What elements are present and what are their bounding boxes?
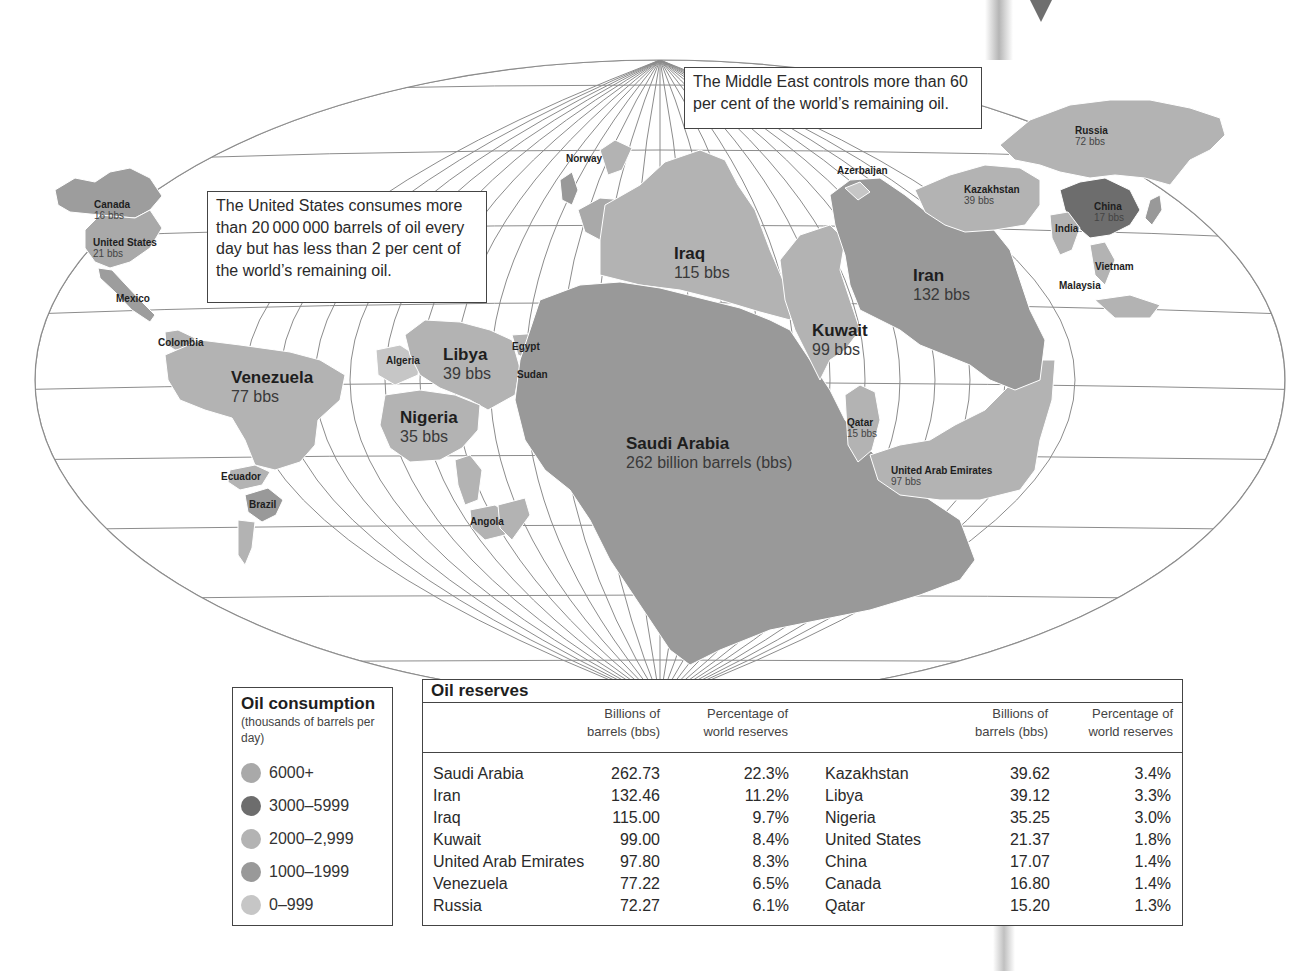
label-vietnam: Vietnam — [1095, 261, 1134, 272]
label-azerbaijan: Azerbaijan — [837, 165, 888, 176]
country-indonesia — [1095, 295, 1160, 318]
country-uk — [560, 172, 578, 205]
callout-united-states-text: The United States consumes more than 20 … — [216, 197, 464, 279]
legend-item: 1000–1999 — [241, 855, 384, 888]
label-russia: Russia 72 bbs — [1075, 125, 1108, 147]
table-row: Nigeria35.253.0% — [825, 807, 1171, 829]
table-row: United Arab Emirates97.808.3% — [433, 851, 789, 873]
col-header-barrels-right: Billions of barrels (bbs) — [958, 705, 1048, 740]
legend-item: 2000–2,999 — [241, 822, 384, 855]
book-spine-shadow-bottom — [993, 925, 1015, 971]
label-ecuador: Ecuador — [221, 471, 261, 482]
label-china: China 17 bbs — [1094, 201, 1124, 223]
label-united-states: United States 21 bbs — [93, 237, 157, 259]
legend-items: 6000+ 3000–5999 2000–2,999 1000–1999 0–9… — [241, 756, 384, 921]
label-sudan: Sudan — [517, 369, 548, 380]
legend-swatch-icon — [241, 862, 261, 882]
table-row: Libya39.123.3% — [825, 785, 1171, 807]
header-divider — [423, 752, 1182, 753]
label-iraq: Iraq 115 bbs — [674, 245, 730, 281]
legend-swatch-icon — [241, 763, 261, 783]
legend-swatch-icon — [241, 796, 261, 816]
col-header-barrels-left: Billions of barrels (bbs) — [573, 705, 660, 740]
col-header-pct-right: Percentage of world reserves — [1058, 705, 1173, 740]
book-spine-shadow-top — [985, 0, 1013, 60]
label-kuwait: Kuwait 99 bbs — [812, 322, 868, 358]
legend-item: 0–999 — [241, 888, 384, 921]
table-row: Canada16.801.4% — [825, 873, 1171, 895]
label-mexico: Mexico — [116, 293, 150, 304]
country-central-africa — [455, 455, 482, 505]
legend-subtitle: (thousands of barrels per day) — [241, 715, 384, 746]
table-row: Kuwait99.008.4% — [433, 829, 789, 851]
label-malaysia: Malaysia — [1059, 280, 1101, 291]
table-row: Russia72.276.1% — [433, 895, 789, 917]
legend-title: Oil consumption — [241, 694, 384, 714]
label-libya: Libya 39 bbs — [443, 346, 491, 382]
page-marker-arrow-icon — [1030, 0, 1052, 22]
label-kazakhstan: Kazakhstan 39 bbs — [964, 184, 1020, 206]
legend-item: 6000+ — [241, 756, 384, 789]
table-row: United States21.371.8% — [825, 829, 1171, 851]
oil-reserves-table: Oil reserves Billions of barrels (bbs) P… — [422, 679, 1183, 926]
label-norway: Norway — [566, 153, 602, 164]
label-egypt: Egypt — [512, 341, 540, 352]
label-qatar: Qatar 15 bbs — [847, 417, 877, 439]
country-japan — [1145, 195, 1162, 225]
label-saudi-arabia: Saudi Arabia 262 billion barrels (bbs) — [626, 435, 792, 471]
legend-swatch-icon — [241, 895, 261, 915]
country-russia — [1000, 100, 1225, 185]
label-angola: Angola — [470, 516, 504, 527]
col-header-pct-left: Percentage of world reserves — [673, 705, 788, 740]
table-row: Saudi Arabia262.7322.3% — [433, 763, 789, 785]
oil-consumption-legend: Oil consumption (thousands of barrels pe… — [232, 687, 393, 926]
callout-middle-east-text: The Middle East controls more than 60 pe… — [693, 73, 968, 112]
table-row: Iran132.4611.2% — [433, 785, 789, 807]
legend-item: 3000–5999 — [241, 789, 384, 822]
callout-united-states: The United States consumes more than 20 … — [207, 191, 487, 303]
country-norway — [600, 140, 632, 175]
label-canada: Canada 16 bbs — [94, 199, 130, 221]
table-row: China17.071.4% — [825, 851, 1171, 873]
table-row: Iraq115.009.7% — [433, 807, 789, 829]
table-row: Venezuela77.226.5% — [433, 873, 789, 895]
table-row: Qatar15.201.3% — [825, 895, 1171, 917]
label-nigeria: Nigeria 35 bbs — [400, 409, 458, 445]
label-venezuela: Venezuela 77 bbs — [231, 369, 313, 405]
label-brazil: Brazil — [249, 499, 276, 510]
callout-middle-east: The Middle East controls more than 60 pe… — [684, 67, 982, 129]
label-india: India — [1055, 223, 1078, 234]
country-south-america-south — [238, 520, 255, 565]
label-colombia: Colombia — [158, 337, 204, 348]
legend-swatch-icon — [241, 829, 261, 849]
reserves-left-table: Saudi Arabia262.7322.3% Iran132.4611.2% … — [433, 763, 789, 917]
reserves-title: Oil reserves — [423, 680, 1182, 703]
label-uae: United Arab Emirates 97 bbs — [891, 465, 992, 487]
label-iran: Iran 132 bbs — [913, 267, 970, 303]
reserves-right-table: Kazakhstan39.623.4% Libya39.123.3% Niger… — [825, 763, 1171, 917]
label-algeria: Algeria — [386, 355, 420, 366]
table-row: Kazakhstan39.623.4% — [825, 763, 1171, 785]
